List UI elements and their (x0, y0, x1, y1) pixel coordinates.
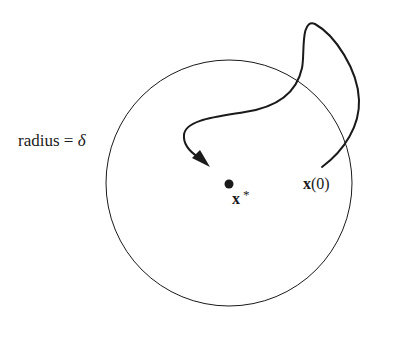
arrowhead-icon (192, 150, 210, 167)
radius-label: radius = δ (18, 131, 87, 150)
equilibrium-point (225, 180, 234, 189)
trajectory-curve (184, 23, 359, 167)
delta-symbol: δ (78, 131, 87, 150)
stability-diagram: radius = δ x* x(0) (0, 0, 393, 364)
equilibrium-label: x* (232, 187, 250, 207)
initial-condition-label: x(0) (303, 175, 330, 193)
